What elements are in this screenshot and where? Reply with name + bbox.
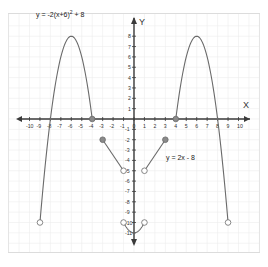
y-tick-label: -7 <box>125 188 130 194</box>
closed-endpoint <box>173 116 179 122</box>
x-tick-label: 4 <box>174 123 177 129</box>
y-axis-label: Y <box>139 17 145 27</box>
x-tick-label: 5 <box>185 123 188 129</box>
x-tick-label: -2 <box>110 123 115 129</box>
x-tick-label: -5 <box>78 123 83 129</box>
x-tick-label: 3 <box>164 123 167 129</box>
y-tick-label: 6 <box>128 54 131 60</box>
open-endpoint <box>142 220 148 226</box>
x-tick-label: -10 <box>26 123 34 129</box>
y-tick-label: 5 <box>128 64 131 70</box>
y-tick-label: -2 <box>125 137 130 143</box>
graph-canvas: -10-9-8-7-6-5-4-3-2-10123456789108765432… <box>0 0 268 267</box>
open-endpoint <box>225 220 231 226</box>
y-tick-label: 2 <box>128 95 131 101</box>
x-tick-label: -6 <box>68 123 73 129</box>
x-tick-label: 9 <box>227 123 230 129</box>
y-tick-label: 1 <box>128 106 131 112</box>
x-tick-label: 2 <box>153 123 156 129</box>
y-tick-label: -8 <box>125 199 130 205</box>
y-tick-label: -6 <box>125 178 130 184</box>
y-tick-label: 4 <box>128 75 131 81</box>
open-endpoint <box>37 220 43 226</box>
x-tick-label: -4 <box>89 123 94 129</box>
equation-line: y = 2x - 8 <box>166 154 195 162</box>
y-tick-label: -3 <box>125 147 130 153</box>
y-tick-label: -9 <box>125 209 130 215</box>
x-tick-label: 6 <box>195 123 198 129</box>
open-endpoint <box>142 168 148 174</box>
x-tick-label: -3 <box>99 123 104 129</box>
open-endpoint <box>121 220 127 226</box>
closed-endpoint <box>89 116 95 122</box>
x-tick-label: -9 <box>36 123 41 129</box>
closed-endpoint <box>100 137 106 143</box>
x-tick-label: 7 <box>206 123 209 129</box>
x-tick-label: 10 <box>237 123 243 129</box>
y-tick-label: 7 <box>128 44 131 50</box>
x-tick-label: -7 <box>57 123 62 129</box>
closed-endpoint <box>163 137 169 143</box>
x-tick-label: 0 <box>133 123 136 129</box>
y-tick-label: -4 <box>125 157 130 163</box>
y-tick-label: 3 <box>128 85 131 91</box>
x-tick-label: 1 <box>143 123 146 129</box>
y-tick-label: 8 <box>128 33 131 39</box>
y-tick-label: -1 <box>125 126 130 132</box>
equation-left-parabola: y = -2(x+6)2 + 8 <box>36 9 85 19</box>
x-axis-label: X <box>243 100 249 110</box>
open-endpoint <box>121 168 127 174</box>
